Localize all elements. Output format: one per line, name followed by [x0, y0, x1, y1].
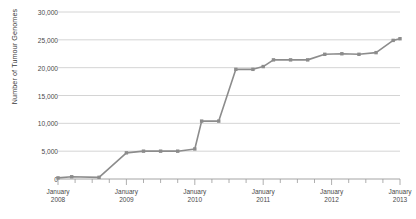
data-point-marker: [97, 176, 100, 179]
data-point-marker: [323, 53, 326, 56]
x-tick-label: January2010: [167, 188, 223, 204]
x-tick-label-year: 2011: [235, 196, 291, 204]
data-point-marker: [398, 37, 401, 40]
data-point-marker: [217, 119, 220, 122]
x-tick-label: January2013: [372, 188, 416, 204]
data-point-marker: [391, 39, 394, 42]
x-tick-label-year: 2010: [167, 196, 223, 204]
data-point-marker: [262, 65, 265, 68]
gridlines: [58, 12, 400, 179]
x-tick-label-month: January: [372, 188, 416, 196]
x-tick-label-month: January: [167, 188, 223, 196]
data-markers: [56, 37, 401, 180]
data-point-marker: [200, 119, 203, 122]
data-point-marker: [272, 58, 275, 61]
x-tick-label-month: January: [30, 188, 86, 196]
data-point-marker: [159, 149, 162, 152]
data-point-marker: [374, 51, 377, 54]
x-tick-label-year: 2009: [98, 196, 154, 204]
data-point-marker: [357, 53, 360, 56]
x-tick-label-month: January: [98, 188, 154, 196]
data-point-marker: [125, 151, 128, 154]
data-point-marker: [70, 175, 73, 178]
x-tick-label-month: January: [304, 188, 360, 196]
x-tick-label: January2008: [30, 188, 86, 204]
data-line: [58, 39, 400, 178]
x-axis-ticks: [58, 179, 400, 185]
data-point-marker: [306, 58, 309, 61]
x-tick-label-month: January: [235, 188, 291, 196]
x-tick-label-year: 2008: [30, 196, 86, 204]
data-point-marker: [289, 58, 292, 61]
data-point-marker: [193, 147, 196, 150]
x-tick-label: January2012: [304, 188, 360, 204]
x-tick-label-year: 2012: [304, 196, 360, 204]
data-point-marker: [142, 149, 145, 152]
data-point-marker: [234, 68, 237, 71]
x-tick-label: January2011: [235, 188, 291, 204]
data-point-marker: [340, 52, 343, 55]
x-tick-label: January2009: [98, 188, 154, 204]
data-point-marker: [176, 149, 179, 152]
data-point-marker: [251, 68, 254, 71]
data-point-marker: [56, 176, 59, 179]
x-tick-label-year: 2013: [372, 196, 416, 204]
